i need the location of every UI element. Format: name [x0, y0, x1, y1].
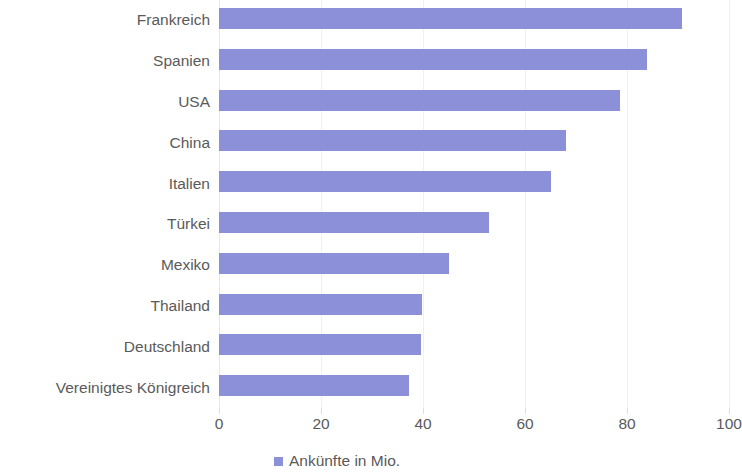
x-axis-tick-label: 100	[716, 414, 742, 434]
bar-row	[219, 122, 729, 163]
bar[interactable]	[219, 334, 421, 355]
bar-row	[219, 41, 729, 82]
bar-chart: FrankreichSpanienUSAChinaItalienTürkeiMe…	[0, 0, 742, 476]
bar[interactable]	[219, 8, 682, 29]
category-label: Thailand	[0, 296, 210, 315]
category-label: USA	[0, 92, 210, 111]
bar[interactable]	[219, 375, 409, 396]
category-label: Spanien	[0, 51, 210, 70]
bar-row	[219, 326, 729, 367]
chart-legend: Ankünfte in Mio.	[0, 452, 742, 470]
category-label: Mexiko	[0, 255, 210, 274]
x-axis-tick-label: 80	[618, 414, 635, 434]
bar[interactable]	[219, 49, 647, 70]
bar-row	[219, 286, 729, 327]
x-axis-tick-label: 60	[516, 414, 533, 434]
bar[interactable]	[219, 212, 489, 233]
gridline	[729, 0, 730, 408]
bar-row	[219, 204, 729, 245]
category-label: Italien	[0, 174, 210, 193]
bar[interactable]	[219, 90, 620, 111]
category-label: China	[0, 133, 210, 152]
bar-row	[219, 82, 729, 123]
bar[interactable]	[219, 253, 449, 274]
bar-row	[219, 0, 729, 41]
x-axis-tick-label: 0	[215, 414, 224, 434]
category-label: Vereinigtes Königreich	[0, 378, 210, 397]
x-axis-tick-label: 20	[312, 414, 329, 434]
category-label: Türkei	[0, 214, 210, 233]
bar-row	[219, 163, 729, 204]
bar[interactable]	[219, 130, 566, 151]
bar-rows	[219, 0, 729, 408]
category-axis-labels: FrankreichSpanienUSAChinaItalienTürkeiMe…	[0, 0, 210, 408]
legend-label: Ankünfte in Mio.	[289, 452, 400, 470]
legend-swatch-icon	[274, 457, 283, 466]
x-axis-labels: 020406080100	[219, 414, 729, 438]
bar[interactable]	[219, 294, 422, 315]
bar[interactable]	[219, 171, 551, 192]
legend-item: Ankünfte in Mio.	[274, 452, 400, 470]
category-label: Frankreich	[0, 10, 210, 29]
bar-row	[219, 245, 729, 286]
bar-row	[219, 367, 729, 408]
plot-area	[219, 0, 729, 408]
category-label: Deutschland	[0, 337, 210, 356]
x-axis-tick-label: 40	[414, 414, 431, 434]
